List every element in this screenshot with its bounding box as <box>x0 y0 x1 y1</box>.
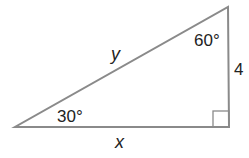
side-y-label: y <box>109 44 121 64</box>
side-x-label: x <box>114 132 125 152</box>
angle-30-label: 30° <box>57 107 83 126</box>
angle-60-label: 60° <box>194 31 220 50</box>
side-4-label: 4 <box>234 60 243 79</box>
triangle <box>15 7 229 127</box>
triangle-diagram: 60° 30° y x 4 <box>0 0 249 158</box>
right-angle-marker <box>213 111 229 127</box>
